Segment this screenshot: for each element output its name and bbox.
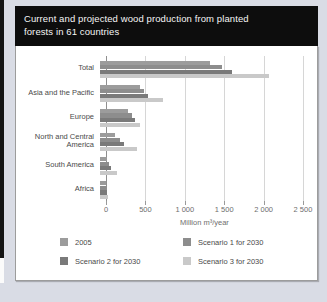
legend-item: Scenario 3 for 2030	[183, 257, 263, 266]
legend-swatch	[60, 257, 68, 265]
bar	[100, 157, 107, 161]
category-row: Africa	[16, 176, 303, 200]
bar	[100, 186, 106, 190]
x-tick-label: 2 500	[294, 205, 313, 214]
gridline	[303, 56, 304, 201]
legend-label: Scenario 3 for 2030	[198, 257, 263, 266]
figure-title: Current and projected wood production fr…	[15, 6, 318, 46]
category-row: Total	[16, 56, 303, 80]
x-tick-label: 2 000	[254, 205, 273, 214]
bar	[100, 118, 135, 122]
x-axis-ticks: 05001 0001 5002 0002 500	[106, 205, 303, 214]
bar	[100, 181, 106, 185]
legend-item: 2005	[60, 238, 183, 247]
category-row: Asia and the Pacific	[16, 80, 303, 104]
bar	[100, 133, 115, 137]
bar-group	[100, 104, 297, 128]
adjacent-panel-edge-light	[0, 258, 4, 283]
bar	[100, 113, 132, 117]
category-label: Africa	[16, 185, 100, 194]
bar-group	[100, 80, 297, 104]
x-axis-title: Million m³/year	[106, 218, 303, 227]
legend-swatch	[183, 238, 191, 246]
chart-figure: Current and projected wood production fr…	[15, 6, 318, 281]
bar	[100, 74, 269, 78]
bar	[100, 166, 111, 170]
bar	[100, 123, 140, 127]
category-row: Europe	[16, 104, 303, 128]
bar	[100, 109, 128, 113]
figure-title-line-2: forests in 61 countries	[24, 25, 306, 38]
legend-item: Scenario 2 for 2030	[60, 257, 183, 266]
category-row: South America	[16, 152, 303, 176]
category-label: Europe	[16, 113, 100, 122]
bar	[100, 94, 148, 98]
bar	[100, 162, 109, 166]
bar-group	[100, 152, 297, 176]
bar	[100, 89, 144, 93]
legend-label: Scenario 1 for 2030	[198, 238, 263, 247]
bar-group	[100, 176, 297, 200]
legend-swatch	[60, 238, 68, 246]
legend: 2005Scenario 1 for 2030Scenario 2 for 20…	[60, 238, 263, 266]
bar	[100, 138, 120, 142]
rows-layer: TotalAsia and the PacificEuropeNorth and…	[16, 56, 303, 201]
category-label: Asia and the Pacific	[16, 89, 100, 98]
figure-title-line-1: Current and projected wood production fr…	[24, 12, 306, 25]
chart-panel: TotalAsia and the PacificEuropeNorth and…	[15, 46, 318, 281]
category-row: North and Central America	[16, 128, 303, 152]
bar	[100, 98, 163, 102]
category-label: Total	[16, 64, 100, 73]
adjacent-panel-edge-dark	[0, 0, 4, 258]
x-tick-label: 1 500	[215, 205, 234, 214]
bar	[100, 65, 222, 69]
category-label: South America	[16, 161, 100, 170]
x-tick-label: 500	[139, 205, 152, 214]
bar-group	[100, 56, 297, 80]
bar	[100, 190, 107, 194]
x-tick-label: 1 000	[175, 205, 194, 214]
legend-label: 2005	[75, 238, 92, 247]
legend-swatch	[183, 257, 191, 265]
legend-item: Scenario 1 for 2030	[183, 238, 263, 247]
bar	[100, 195, 108, 199]
bar	[100, 142, 124, 146]
bar	[100, 85, 140, 89]
bar	[100, 61, 210, 65]
x-tick-label: 0	[104, 205, 108, 214]
bar	[100, 70, 232, 74]
bar-group	[100, 128, 297, 152]
category-label: North and Central America	[16, 133, 100, 150]
bar	[100, 171, 117, 175]
legend-label: Scenario 2 for 2030	[75, 257, 140, 266]
bar	[100, 147, 137, 151]
